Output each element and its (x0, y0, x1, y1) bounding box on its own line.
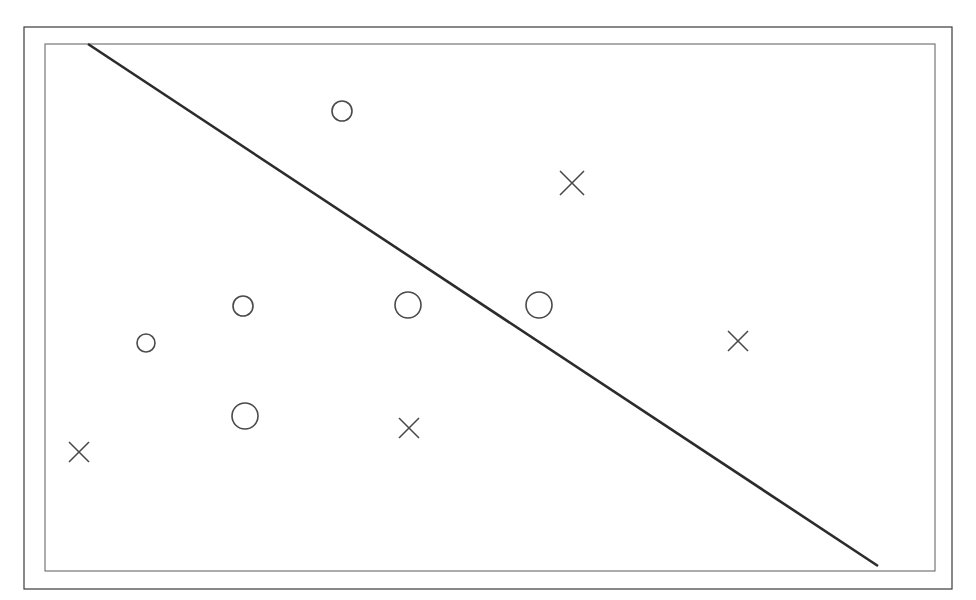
decision-boundary-line (88, 44, 878, 566)
circle-class-markers (137, 101, 552, 429)
cross-marker (560, 171, 584, 195)
circle-marker (332, 101, 352, 121)
scatter-plot-canvas (0, 0, 976, 600)
inner-border (45, 44, 935, 571)
circle-marker (395, 292, 421, 318)
circle-marker (137, 334, 155, 352)
circle-marker (232, 403, 258, 429)
circle-marker (526, 292, 552, 318)
cross-marker (728, 331, 748, 351)
cross-marker (399, 418, 419, 438)
circle-marker (233, 296, 253, 316)
cross-marker (69, 442, 89, 462)
figure-root (0, 0, 976, 600)
cross-class-markers (69, 171, 748, 462)
